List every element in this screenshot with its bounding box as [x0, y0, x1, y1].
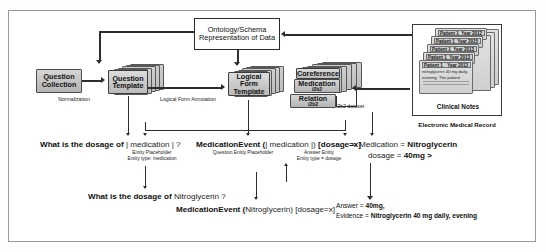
logical-form-annotation-right: Answer Entity Entity type = dosage: [288, 150, 350, 163]
clinical-notes-panel[interactable]: Patient 1 Year 2012 Patient 1 Year 2015 …: [412, 24, 502, 116]
emr-caption: Electronic Medical Record: [404, 121, 510, 128]
edge-template-row-bus-left: [145, 122, 146, 131]
edge-ontology-to-question-template: [99, 31, 195, 33]
logical-form-template-label: Logical Form Template: [231, 73, 267, 95]
edge-relation-to-answer: [370, 163, 371, 197]
edge-template-to-logical-form: [148, 87, 222, 89]
instance-logical-form-entity: Nitroglycerin: [245, 205, 290, 214]
edge-template-row-bus: [145, 130, 345, 131]
question-collection-label: Question Collection: [39, 73, 79, 88]
record-year: Year 2012: [461, 31, 482, 36]
evidence-value: Nitroglycerin 40 mg daily, evening: [371, 212, 478, 219]
relation-formula-line1: < Medication = Nitroglycerin: [352, 140, 457, 149]
record-patient: Patient 1: [436, 39, 455, 44]
record-card-front: Patient 1 Year 2013 nitroglycerin 40 mg …: [419, 60, 473, 94]
edge-emr-to-ontology: [285, 34, 415, 36]
record-year: Year 2015: [457, 39, 478, 44]
edge-template-to-instance-question: [145, 166, 146, 187]
record-note-text: nitroglycerin 40 mg daily, evening. The …: [420, 68, 472, 80]
record-patient: Patient 1: [440, 31, 459, 36]
arrowhead-template-row-left: [143, 133, 147, 136]
record-year: Year 2013: [447, 63, 468, 68]
arrowhead-emr-to-ontology: [281, 31, 285, 37]
relation-sublabel: i2b2: [308, 102, 318, 107]
arrowhead-ontology-to-question-template: [96, 60, 102, 64]
record-rule: [423, 84, 469, 85]
record-patient: Patient 1: [432, 47, 451, 52]
edge-i2b2-to-relation-text: [372, 112, 373, 134]
record-year: Year 2013: [449, 55, 470, 60]
arrowhead-relation-to-answer: [367, 196, 373, 200]
ontology-schema-label: Ontology/Schema Representation of Data: [198, 26, 276, 42]
question-template-stack[interactable]: Question Template: [108, 64, 164, 96]
evidence-line: Evidence = Nitroglycerin 40 mg daily, ev…: [336, 211, 477, 221]
arrowhead-collection-to-template: [101, 77, 105, 83]
arrowhead-template-to-logical-form: [221, 84, 225, 90]
i2b2-bracket-left: [336, 96, 337, 106]
ontology-schema-box[interactable]: Ontology/Schema Representation of Data: [194, 18, 280, 50]
edge-template-to-instance-logical-form: [256, 172, 257, 198]
question-template-formula-slot: | medication | ?: [126, 140, 181, 149]
edge-label-logical-form-annotation: Logical Form Annotation: [160, 96, 216, 103]
evidence-label: Evidence =: [336, 212, 371, 219]
question-template-formula: What is the dosage of | medication | ?: [40, 140, 181, 149]
answer-block: Answer = 40mg, Evidence = Nitroglycerin …: [336, 201, 477, 221]
clinical-notes-caption: Clinical Notes: [413, 103, 503, 110]
answer-label: Answer =: [336, 202, 366, 209]
edge-label-normalization: Normalization: [44, 96, 104, 103]
i2b2-bracket-bottom: [336, 106, 357, 107]
edge-emr-to-i2b2: [356, 88, 410, 90]
logical-form-formula-slot: | medication |: [265, 140, 313, 149]
relation-formula-open: < Medication =: [352, 140, 407, 149]
question-template-annotation: Entity Placeholder Entity type: medicati…: [108, 150, 196, 163]
logical-form-formula: MedicationEvent (| medication |) [dosage…: [196, 140, 361, 149]
relation-formula-medication: Nitroglycerin: [407, 140, 457, 149]
instance-logical-form-dosage: [dosage=x]: [295, 205, 335, 214]
instance-logical-form-close: ): [290, 205, 293, 214]
instance-question-entity: Nitroglycerin ?: [174, 192, 226, 201]
edge-collection-to-template: [82, 80, 102, 82]
question-template-front: Question Template: [108, 70, 148, 94]
medication-i2b2-box[interactable]: Medication i2b2: [294, 79, 340, 93]
answer-value: 40mg,: [366, 202, 385, 209]
relation-formula-dosage-label: dosage =: [368, 151, 404, 160]
edge-answer-entity-riser: [286, 166, 287, 182]
medication-sublabel: i2b2: [312, 87, 322, 92]
relation-i2b2-box[interactable]: Relation i2b2: [290, 94, 336, 108]
logical-form-template-front: Logical Form Template: [228, 72, 270, 96]
record-year: Year 2013: [453, 47, 474, 52]
logical-form-formula-bold: MedicationEvent (: [196, 140, 265, 149]
coreference-label: Coreference: [297, 70, 339, 77]
record-patient: Patient 1: [428, 55, 447, 60]
question-template-label: Question Template: [111, 75, 145, 90]
relation-formula-dosage-value: 40mg >: [404, 151, 432, 160]
instance-question-formula: What is the dosage of Nitroglycerin ?: [88, 192, 226, 201]
answer-entity-type-label: Entity type = dosage: [288, 156, 350, 162]
instance-logical-form-bold: MedicationEvent (: [176, 205, 245, 214]
question-template-formula-bold: What is the dosage of: [40, 140, 124, 149]
record-rule: [423, 81, 469, 82]
instance-question-bold: What is the dosage of: [88, 192, 172, 201]
edge-logical-form-to-text: [248, 100, 249, 134]
edge-ontology-to-question-template-drop: [99, 31, 101, 61]
i2b2-bracket-right: [356, 88, 357, 106]
edge-template-row-bus-right: [345, 120, 346, 131]
relation-formula-line2: dosage = 40mg >: [368, 151, 432, 160]
arrowhead-question-template-to-text: [126, 133, 130, 136]
arrowhead-answer-entity-up: [284, 163, 288, 166]
question-collection-box[interactable]: Question Collection: [36, 69, 82, 93]
record-patient: Patient 1: [424, 63, 443, 68]
answer-line: Answer = 40mg,: [336, 201, 477, 211]
instance-logical-form-formula: MedicationEvent (Nitroglycerin) [dosage=…: [176, 205, 335, 214]
edge-question-template-to-text: [128, 96, 129, 134]
arrowhead-template-row-right: [343, 133, 347, 136]
arrowhead-instance-logical-form: [254, 197, 258, 200]
logical-form-annotation-left: Question Entity Placeholder: [200, 150, 286, 156]
arrowhead-i2b2-to-relation-text: [370, 133, 374, 136]
coreference-front: Coreference: [296, 68, 340, 79]
diagram-root: Ontology/Schema Representation of Data Q…: [0, 0, 546, 252]
entity-type-label: Entity type: medication: [108, 156, 196, 162]
logical-form-template-stack[interactable]: Logical Form Template: [228, 66, 286, 100]
arrowhead-instance-question: [143, 186, 147, 189]
arrowhead-logical-form-to-text: [246, 133, 250, 136]
